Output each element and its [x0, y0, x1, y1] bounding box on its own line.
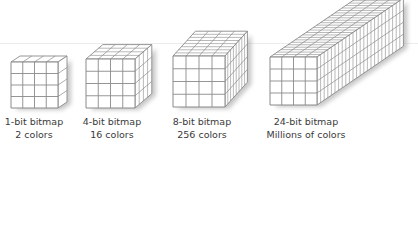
- cube-title: 24-bit bitmap: [251, 115, 361, 128]
- cube-subtitle: 256 colors: [147, 128, 257, 141]
- cube-title: 8-bit bitmap: [147, 115, 257, 128]
- cube-label-24bit: 24-bit bitmap Millions of colors: [251, 115, 361, 141]
- cube-subtitle: Millions of colors: [251, 128, 361, 141]
- cube-label-8bit: 8-bit bitmap 256 colors: [147, 115, 257, 141]
